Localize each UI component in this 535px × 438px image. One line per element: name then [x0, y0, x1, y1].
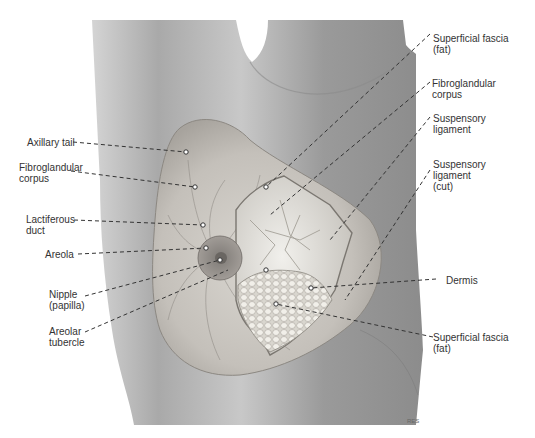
- label-areola: Areola: [45, 249, 74, 260]
- label-lactiferous-duct: Lactiferous duct: [26, 214, 75, 236]
- label-fibroglandular-corpus-left: Fibroglandular corpus: [19, 162, 83, 184]
- artist-signature: RES: [407, 418, 419, 424]
- label-superficial-fascia-bottom: Superficial fascia (fat): [433, 332, 509, 354]
- label-fibroglandular-corpus-right: Fibroglandular corpus: [432, 78, 496, 100]
- label-nipple: Nipple (papilla): [49, 289, 85, 311]
- label-suspensory-ligament: Suspensory ligament: [433, 113, 486, 135]
- label-dermis: Dermis: [446, 275, 478, 286]
- label-suspensory-ligament-cut: Suspensory ligament (cut): [433, 159, 486, 192]
- label-superficial-fascia-top: Superficial fascia (fat): [433, 33, 509, 55]
- breast-anatomy-illustration: RES: [0, 0, 535, 438]
- label-axillary-tail: Axillary tail: [27, 137, 75, 148]
- label-areolar-tubercle: Areolar tubercle: [49, 326, 85, 348]
